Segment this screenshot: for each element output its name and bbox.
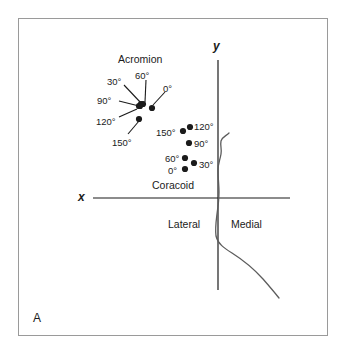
coracoid-angle-label: 90° bbox=[194, 139, 208, 149]
y-axis-label: y bbox=[213, 40, 220, 52]
coracoid-point bbox=[182, 155, 188, 161]
leader-line bbox=[119, 109, 137, 117]
anatomy-label: Lateral bbox=[168, 219, 200, 230]
coracoid-point bbox=[191, 160, 197, 166]
acromion-angle-label: 90° bbox=[97, 96, 111, 106]
leader-line bbox=[145, 80, 146, 102]
x-axis-label: x bbox=[78, 191, 85, 203]
acromion-angle-label: 60° bbox=[135, 71, 149, 81]
acromion-point bbox=[136, 116, 142, 122]
coracoid-angle-label: 30° bbox=[199, 160, 213, 170]
axes-group bbox=[93, 60, 290, 290]
coracoid-point bbox=[180, 128, 186, 134]
acromion-angle-label: 0° bbox=[163, 84, 172, 94]
panel-letter: A bbox=[33, 312, 41, 324]
coracoid-point bbox=[182, 166, 188, 172]
coracoid-point bbox=[186, 140, 192, 146]
acromion-angle-label: 120° bbox=[96, 117, 116, 127]
anatomy-label: Medial bbox=[231, 219, 262, 230]
acromion-angle-label: 30° bbox=[107, 77, 121, 87]
scapula-outline bbox=[216, 133, 279, 298]
coracoid-angle-label: 60° bbox=[165, 154, 179, 164]
coracoid-angle-label: 120° bbox=[194, 122, 214, 132]
leader-line bbox=[124, 85, 141, 103]
scapula-outline-path bbox=[216, 133, 279, 298]
coracoid-angle-label: 150° bbox=[156, 128, 176, 138]
acromion-point bbox=[137, 103, 143, 109]
acromion-data-points bbox=[136, 101, 155, 122]
figure-panel: x y AcromionCoracoidLateralMedial 30°60°… bbox=[0, 0, 346, 354]
acromion-angle-label: 150° bbox=[112, 138, 132, 148]
coracoid-angle-label: 0° bbox=[168, 166, 177, 176]
coracoid-point bbox=[187, 124, 193, 130]
anatomy-label: Acromion bbox=[118, 54, 162, 65]
figure-graphics bbox=[0, 0, 346, 354]
anatomy-label: Coracoid bbox=[152, 180, 194, 191]
acromion-point bbox=[149, 105, 155, 111]
leader-line bbox=[128, 121, 139, 134]
